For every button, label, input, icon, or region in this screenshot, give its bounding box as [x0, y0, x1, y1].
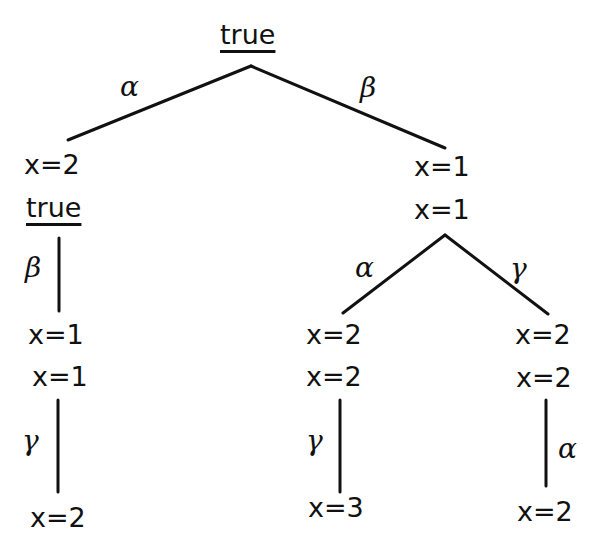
node-left2-line1: x=1 — [28, 320, 84, 350]
edge-label-alpha: α — [120, 72, 139, 102]
node-left2-line2: x=1 — [32, 362, 88, 392]
edge-label-alpha: α — [355, 253, 374, 283]
edge-label-gamma: γ — [510, 254, 527, 284]
node-left-line1: x=2 — [24, 150, 80, 180]
node-left-line2: true — [26, 193, 81, 223]
edge-label-gamma: γ — [22, 426, 39, 456]
node-rl2-line1: x=3 — [308, 493, 364, 523]
node-right-line2: x=1 — [414, 195, 470, 225]
node-rr-line2: x=2 — [516, 363, 572, 393]
node-left3-line1: x=2 — [30, 503, 86, 533]
edge-label-gamma: γ — [306, 426, 323, 456]
node-rr-line1: x=2 — [515, 320, 571, 350]
edge-root-left — [68, 66, 251, 140]
root-node-label: true — [220, 20, 275, 50]
edge-label-beta: β — [25, 253, 41, 283]
tree-diagram: true α β x=2 true β x=1 x=1 α γ x=1 x=1 … — [0, 0, 611, 557]
edge-label-alpha: α — [558, 434, 577, 464]
node-rl-line1: x=2 — [306, 320, 362, 350]
node-rl-line2: x=2 — [306, 362, 362, 392]
edge-label-beta: β — [360, 73, 376, 103]
edge-root-right — [251, 66, 445, 148]
node-rr2-line1: x=2 — [517, 497, 573, 527]
edge-right-right — [445, 235, 548, 314]
node-right-line1: x=1 — [414, 152, 470, 182]
